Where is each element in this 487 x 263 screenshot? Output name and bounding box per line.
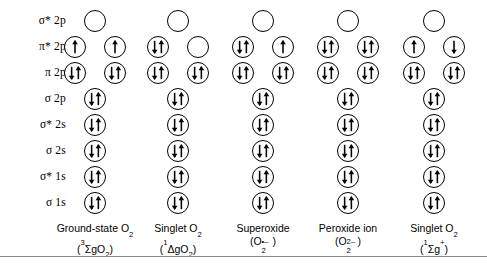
bottom-divider (0, 256, 487, 257)
orbital-ground-state-o2-pi-star-2p-right (104, 36, 126, 58)
orbital-ground-state-o2-sigma-2p (84, 88, 106, 110)
orbital-singlet-o2-sigma-sigma-star-2s (423, 114, 445, 136)
orbital-peroxide-ion-sigma-star-1s (337, 166, 359, 188)
row-label-sigma-2p: σ 2p (0, 93, 66, 105)
orbital-superoxide-sigma-star-2s (252, 114, 274, 136)
orbital-singlet-o2-delta-pi-star-2p-left (147, 36, 169, 58)
orbital-peroxide-ion-sigma-2s (337, 140, 359, 162)
row-label-sigma-2s: σ 2s (0, 145, 66, 157)
row-label-pi-star-2p: π* 2p (0, 41, 66, 53)
orbital-ground-state-o2-pi-2p-right (104, 62, 126, 84)
orbital-singlet-o2-sigma-sigma-1s (423, 192, 445, 214)
orbital-superoxide-pi-2p-left (232, 62, 254, 84)
orbital-singlet-o2-delta-pi-2p-left (147, 62, 169, 84)
orbital-singlet-o2-sigma-pi-2p-left (403, 62, 425, 84)
orbital-singlet-o2-sigma-pi-star-2p-right (443, 36, 465, 58)
orbital-superoxide-sigma-star-1s (252, 166, 274, 188)
orbital-peroxide-ion-sigma-star-2s (337, 114, 359, 136)
orbital-superoxide-pi-star-2p-right (272, 36, 294, 58)
column-term-symbol-singlet-o2-sigma: (1Σg+) (364, 240, 487, 255)
orbital-singlet-o2-sigma-sigma-star-1s (423, 166, 445, 188)
orbital-ground-state-o2-sigma-1s (84, 192, 106, 214)
column-name-singlet-o2-sigma: Singlet O2 (364, 222, 487, 240)
orbital-superoxide-pi-2p-right (272, 62, 294, 84)
orbital-singlet-o2-sigma-sigma-star-2p (423, 10, 445, 32)
orbital-superoxide-sigma-2p (252, 88, 274, 110)
orbital-peroxide-ion-pi-2p-right (357, 62, 379, 84)
orbital-singlet-o2-delta-sigma-2s (167, 140, 189, 162)
orbital-singlet-o2-sigma-sigma-2p (423, 88, 445, 110)
orbital-peroxide-ion-pi-2p-left (317, 62, 339, 84)
orbital-peroxide-ion-sigma-2p (337, 88, 359, 110)
row-label-sigma-star-1s: σ* 1s (0, 171, 66, 183)
orbital-ground-state-o2-sigma-star-2p (84, 10, 106, 32)
orbital-ground-state-o2-sigma-star-1s (84, 166, 106, 188)
row-label-sigma-1s: σ 1s (0, 197, 66, 209)
orbital-singlet-o2-sigma-pi-star-2p-left (403, 36, 425, 58)
orbital-ground-state-o2-pi-star-2p-left (64, 36, 86, 58)
row-label-sigma-star-2s: σ* 2s (0, 119, 66, 131)
orbital-ground-state-o2-pi-2p-left (64, 62, 86, 84)
orbital-singlet-o2-delta-pi-2p-right (187, 62, 209, 84)
orbital-singlet-o2-delta-pi-star-2p-right (187, 36, 209, 58)
orbital-peroxide-ion-pi-star-2p-right (357, 36, 379, 58)
orbital-superoxide-sigma-1s (252, 192, 274, 214)
column-caption-singlet-o2-sigma: Singlet O2(1Σg+) (364, 222, 487, 255)
orbital-ground-state-o2-sigma-star-2s (84, 114, 106, 136)
orbital-singlet-o2-delta-sigma-star-2p (167, 10, 189, 32)
row-label-pi-2p: π 2p (0, 67, 66, 79)
orbital-superoxide-pi-star-2p-left (232, 36, 254, 58)
orbital-peroxide-ion-sigma-1s (337, 192, 359, 214)
orbital-superoxide-sigma-star-2p (252, 10, 274, 32)
orbital-superoxide-sigma-2s (252, 140, 274, 162)
orbital-peroxide-ion-pi-star-2p-left (317, 36, 339, 58)
orbital-singlet-o2-sigma-sigma-2s (423, 140, 445, 162)
mo-diagram: σ* 2pπ* 2pπ 2pσ 2pσ* 2sσ 2sσ* 1sσ 1sGrou… (0, 0, 487, 263)
orbital-singlet-o2-delta-sigma-1s (167, 192, 189, 214)
row-label-sigma-star-2p: σ* 2p (0, 15, 66, 27)
orbital-ground-state-o2-sigma-2s (84, 140, 106, 162)
orbital-singlet-o2-delta-sigma-2p (167, 88, 189, 110)
orbital-singlet-o2-delta-sigma-star-1s (167, 166, 189, 188)
orbital-singlet-o2-sigma-pi-2p-right (443, 62, 465, 84)
orbital-peroxide-ion-sigma-star-2p (337, 10, 359, 32)
orbital-singlet-o2-delta-sigma-star-2s (167, 114, 189, 136)
